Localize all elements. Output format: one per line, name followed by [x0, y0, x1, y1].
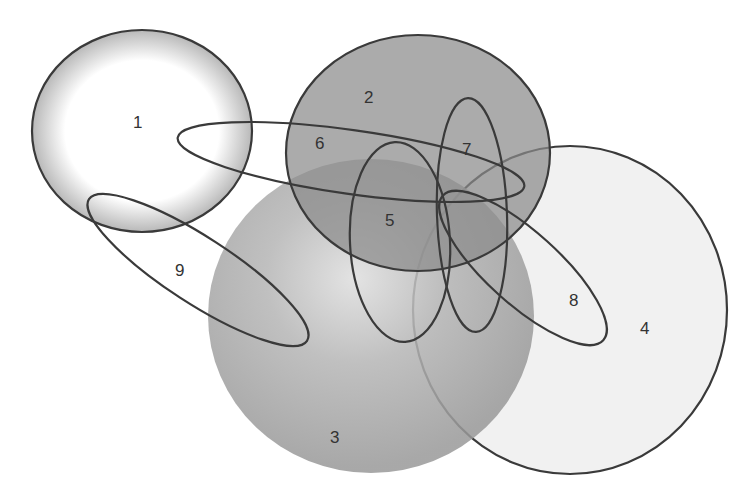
set-label-1: 1 [133, 113, 142, 132]
set-label-9: 9 [175, 261, 184, 280]
set-label-3: 3 [330, 428, 339, 447]
set-label-5: 5 [385, 211, 394, 230]
set-label-2: 2 [364, 88, 373, 107]
set-label-6: 6 [315, 134, 324, 153]
set-fills [32, 30, 727, 474]
set-label-4: 4 [640, 319, 649, 338]
venn-diagram: 123456789 [0, 0, 747, 495]
set-label-8: 8 [569, 291, 578, 310]
set-label-7: 7 [462, 140, 471, 159]
